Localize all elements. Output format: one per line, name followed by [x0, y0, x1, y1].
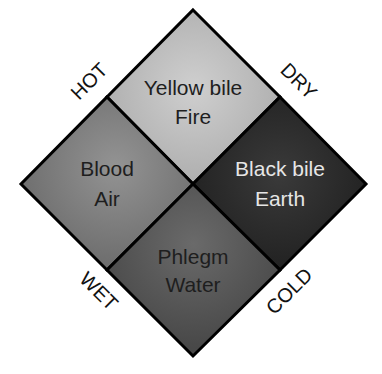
black-bile-label: Black bile [235, 157, 325, 180]
hot-label: HOT [66, 58, 111, 103]
humours-diagram: Yellow bile Fire Blood Air Black bile Ea… [0, 0, 382, 374]
air-label: Air [94, 187, 120, 210]
yellow-bile-label: Yellow bile [144, 76, 242, 99]
water-label: Water [165, 273, 220, 296]
fire-label: Fire [175, 105, 211, 128]
earth-label: Earth [255, 187, 305, 210]
blood-label: Blood [80, 157, 134, 180]
dry-label: DRY [276, 58, 321, 103]
phlegm-label: Phlegm [157, 245, 228, 268]
